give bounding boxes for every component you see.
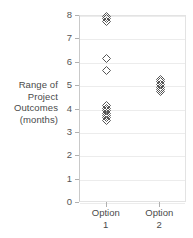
y-tick-label: 2 — [56, 149, 72, 160]
y-tick-label: 0 — [56, 196, 72, 207]
gridline — [80, 86, 185, 87]
y-tick-mark — [75, 179, 79, 180]
y-axis-title-line-2: Project — [0, 91, 58, 103]
y-tick-mark — [75, 155, 79, 156]
y-tick-label: 5 — [56, 79, 72, 90]
y-tick-label: 4 — [56, 103, 72, 114]
y-tick-label: 1 — [56, 173, 72, 184]
dot-plot-chart: Range of Project Outcomes (months) 01234… — [0, 0, 193, 238]
gridline — [80, 39, 185, 40]
x-tick-label-2: Option2 — [129, 207, 189, 230]
data-point-marker — [102, 66, 111, 75]
data-point-marker — [102, 17, 111, 26]
x-tick-label-line: 2 — [129, 219, 189, 231]
y-tick-mark — [75, 85, 79, 86]
y-tick-mark — [75, 109, 79, 110]
y-tick-label: 7 — [56, 32, 72, 43]
y-axis-title-line-1: Range of — [0, 79, 58, 91]
y-axis-title: Range of Project Outcomes (months) — [0, 79, 58, 125]
gridline — [80, 133, 185, 134]
y-tick-mark — [75, 202, 79, 203]
gridline — [80, 63, 185, 64]
y-tick-label: 3 — [56, 126, 72, 137]
gridline — [80, 110, 185, 111]
y-tick-label: 6 — [56, 56, 72, 67]
data-point-marker — [156, 87, 165, 96]
gridline — [80, 180, 185, 181]
y-tick-mark — [75, 62, 79, 63]
y-tick-label: 8 — [56, 9, 72, 20]
y-tick-mark — [75, 38, 79, 39]
x-tick-label-line: Option — [129, 207, 189, 219]
y-axis-title-line-3: Outcomes — [0, 102, 58, 114]
x-tick-label-line: 1 — [76, 219, 136, 231]
y-tick-mark — [75, 15, 79, 16]
x-tick-label-line: Option — [76, 207, 136, 219]
data-point-marker — [102, 54, 111, 63]
plot-area — [79, 15, 186, 202]
gridline — [80, 16, 185, 17]
data-point-marker — [102, 116, 111, 125]
gridline — [80, 203, 185, 204]
x-tick-label-1: Option1 — [76, 207, 136, 230]
gridline — [80, 156, 185, 157]
y-axis-title-line-4: (months) — [0, 114, 58, 126]
y-tick-mark — [75, 132, 79, 133]
